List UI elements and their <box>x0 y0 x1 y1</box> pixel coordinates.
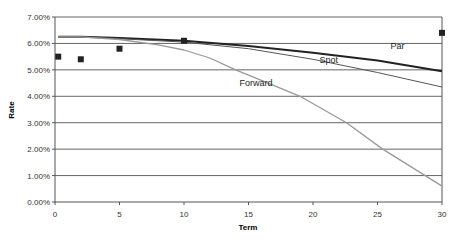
y-axis-ticks: 0.00%1.00%2.00%3.00%4.00%5.00%6.00%7.00% <box>27 13 55 207</box>
series-par-line <box>58 37 442 71</box>
y-tick-label: 3.00% <box>27 119 50 128</box>
series-forward-line <box>58 37 442 186</box>
market-rate-marker <box>181 38 187 44</box>
x-axis-ticks: 051015202530 <box>53 202 447 219</box>
rate-term-chart: 0.00%1.00%2.00%3.00%4.00%5.00%6.00%7.00%… <box>0 0 460 245</box>
y-axis-title: Rate <box>7 101 16 119</box>
x-tick-label: 15 <box>244 210 253 219</box>
y-tick-label: 4.00% <box>27 92 50 101</box>
market-rate-marker <box>439 30 445 36</box>
label-spot: Spot <box>319 55 338 65</box>
x-tick-label: 5 <box>117 210 122 219</box>
y-tick-label: 7.00% <box>27 13 50 22</box>
y-tick-label: 6.00% <box>27 39 50 48</box>
market-rate-marker <box>117 46 123 52</box>
x-tick-label: 10 <box>180 210 189 219</box>
x-tick-label: 30 <box>438 210 447 219</box>
x-tick-label: 25 <box>373 210 382 219</box>
x-tick-label: 0 <box>53 210 58 219</box>
label-par: Par <box>390 41 404 51</box>
x-tick-label: 20 <box>309 210 318 219</box>
gridlines <box>55 17 442 176</box>
market-rate-marker <box>55 54 61 60</box>
x-axis-title: Term <box>239 223 258 232</box>
y-tick-label: 2.00% <box>27 145 50 154</box>
y-tick-label: 0.00% <box>27 198 50 207</box>
label-forward: Forward <box>239 78 272 88</box>
market-rate-marker <box>78 56 84 62</box>
y-tick-label: 1.00% <box>27 172 50 181</box>
series-group <box>55 30 445 186</box>
y-tick-label: 5.00% <box>27 66 50 75</box>
